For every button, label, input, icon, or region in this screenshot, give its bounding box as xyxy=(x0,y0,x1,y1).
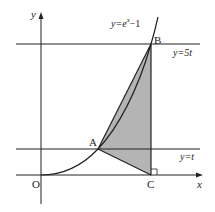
line-t-label: y=t xyxy=(179,151,194,162)
origin-label: O xyxy=(32,178,40,190)
right-angle-mark xyxy=(151,169,157,175)
point-A-label: A xyxy=(89,136,97,148)
point-B-label: B xyxy=(154,34,161,46)
x-axis-label: x xyxy=(196,178,202,190)
shaded-region xyxy=(98,44,151,175)
line-5t-label: y=5t xyxy=(172,47,192,58)
x-axis-arrow-icon xyxy=(196,173,203,178)
point-C-label: C xyxy=(147,178,154,190)
y-axis-arrow-icon xyxy=(39,12,44,19)
curve-label: y=ex−1 xyxy=(110,16,140,29)
y-axis-label: y xyxy=(30,8,36,20)
diagram-canvas: y x O y=ex−1 y=5t y=t A B C xyxy=(0,0,215,212)
